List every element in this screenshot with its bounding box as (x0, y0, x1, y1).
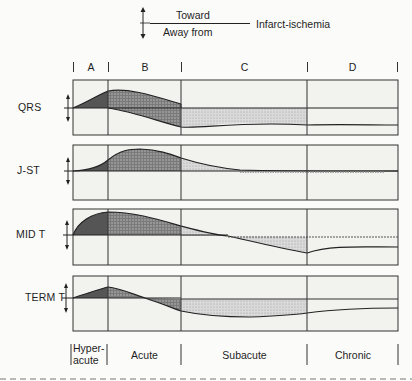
panel-jst (73, 145, 398, 200)
panel-qrs (73, 80, 398, 135)
phase-hyperacute: Hyper- acute (72, 342, 108, 366)
ecg-time-course-diagram (0, 0, 412, 381)
double-arrow-icon (62, 283, 73, 313)
phase-acute: Acute (108, 349, 181, 361)
double-arrow-icon (64, 157, 73, 185)
panel-midt (73, 209, 398, 265)
double-arrow-icon (63, 220, 73, 250)
caption-cutoff (0, 377, 412, 381)
phase-hyperacute-line1: Hyper- (73, 342, 108, 354)
double-arrow-icon (64, 94, 73, 122)
phase-subacute: Subacute (182, 349, 307, 361)
panel-termt (73, 276, 398, 331)
phase-hyperacute-line2: acute (73, 354, 108, 366)
phase-chronic: Chronic (308, 349, 398, 361)
